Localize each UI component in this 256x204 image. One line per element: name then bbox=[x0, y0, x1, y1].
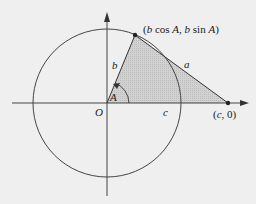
label-A: A bbox=[109, 91, 117, 103]
point-right bbox=[226, 101, 230, 105]
x-axis-arrow-icon bbox=[240, 100, 249, 106]
shaded-triangle bbox=[107, 35, 228, 103]
label-point-top: (b cos A, b sin A) bbox=[143, 23, 219, 36]
label-a: a bbox=[184, 58, 190, 70]
law-of-cosines-diagram: (b cos A, b sin A) b a A O c (c, 0) bbox=[0, 0, 256, 204]
y-axis-arrow-icon bbox=[104, 12, 110, 22]
label-O: O bbox=[95, 106, 103, 118]
label-b: b bbox=[112, 59, 118, 71]
label-point-right: (c, 0) bbox=[213, 108, 237, 121]
point-top bbox=[133, 33, 137, 37]
label-c: c bbox=[163, 106, 168, 118]
